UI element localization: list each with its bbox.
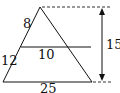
label-lower-side: 12 [1,53,18,68]
label-upper-side: 8 [23,16,31,31]
arrow-up-icon [99,8,105,15]
label-mid-segment: 10 [38,47,55,62]
triangle [3,7,92,82]
triangle-diagram: 8 12 10 25 15 [0,0,120,93]
label-base: 25 [40,81,57,93]
arrow-down-icon [99,74,105,81]
label-height: 15 [106,37,120,52]
